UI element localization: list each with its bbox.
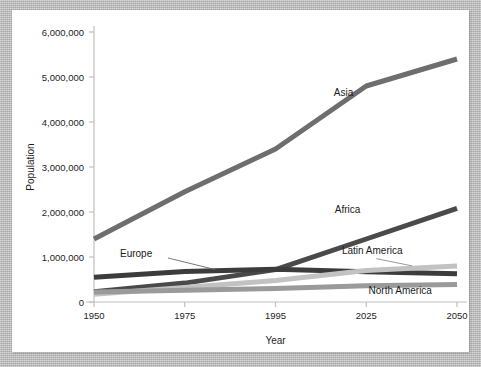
y-axis-tick-labels: 01,000,0002,000,0003,000,0004,000,0005,0… (42, 27, 84, 308)
series-label-north-america: North America (369, 285, 433, 296)
y-tick-label: 4,000,000 (42, 117, 84, 128)
axis-lines (86, 26, 467, 302)
y-tick-label: 1,000,000 (42, 252, 84, 263)
x-tick-label: 1975 (174, 310, 195, 321)
x-tick-label: 1995 (265, 310, 286, 321)
series-labels: AsiaAfricaEuropeLatin AmericaNorth Ameri… (120, 87, 432, 296)
x-axis-ticks (94, 302, 457, 307)
x-tick-label: 2050 (446, 310, 467, 321)
y-axis-ticks (89, 32, 94, 302)
population-line-chart: 01,000,0002,000,0003,000,0004,000,0005,0… (12, 10, 469, 352)
leader-line-latin-america (376, 259, 412, 266)
series-label-asia: Asia (334, 87, 354, 98)
y-tick-label: 2,000,000 (42, 207, 84, 218)
x-tick-label: 1950 (83, 310, 104, 321)
y-tick-label: 6,000,000 (42, 27, 84, 38)
y-tick-label: 5,000,000 (42, 72, 84, 83)
chart-card: 01,000,0002,000,0003,000,0004,000,0005,0… (12, 10, 469, 352)
y-tick-label: 0 (79, 297, 84, 308)
y-axis-title: Population (25, 143, 36, 190)
series-label-latin-america: Latin America (342, 245, 403, 256)
x-tick-label: 2025 (356, 310, 377, 321)
leader-line-europe (168, 258, 215, 270)
series-lines (94, 59, 457, 294)
y-tick-label: 3,000,000 (42, 162, 84, 173)
figure-root: 01,000,0002,000,0003,000,0004,000,0005,0… (0, 0, 481, 367)
series-label-africa: Africa (335, 204, 361, 215)
series-label-europe: Europe (120, 248, 153, 259)
x-axis-tick-labels: 19501975199520252050 (83, 310, 467, 321)
series-line-asia (94, 59, 457, 239)
x-axis-title: Year (265, 335, 286, 346)
